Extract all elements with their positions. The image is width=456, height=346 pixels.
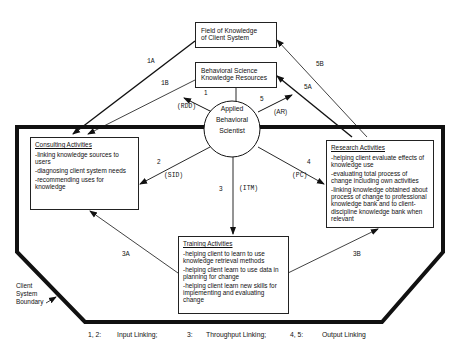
legend-through-label: Throughput Linking; (206, 331, 266, 338)
edge-label-3a: 3A (122, 250, 130, 257)
consulting-title: Consulting Activities (35, 141, 134, 148)
consulting-item: -diagnosing client system needs (35, 167, 134, 174)
training-item: -helping client to learn to use knowledg… (183, 250, 284, 264)
edge-label-pc: (PC) (292, 172, 307, 179)
behavioral-line-2: Knowledge Resources (201, 73, 271, 82)
applied-behavioral-scientist: Applied Behavioral Scientist (204, 103, 260, 136)
boundary-line-1: Client (16, 282, 43, 290)
training-title: Training Activities (183, 240, 284, 247)
center-line-2: Behavioral (204, 114, 260, 125)
research-item: -helping client evaluate effects of know… (331, 154, 429, 168)
consulting-activities-box: Consulting Activities -linking knowledge… (30, 137, 139, 210)
edge-label-ar: (AR) (274, 108, 287, 115)
behavioral-science-box: Behavioral Science Knowledge Resources (195, 62, 277, 88)
legend-output-label: Output Linking (322, 331, 366, 338)
training-item: -helping client learn new skills for imp… (183, 282, 284, 304)
edge-label-1: 1 (204, 89, 208, 96)
legend-input-nums: 1, 2: (88, 331, 101, 338)
center-line-1: Applied (204, 103, 260, 114)
consulting-item: -linking knowledge sources to users (35, 151, 134, 165)
edge-label-rdd: (RDD) (177, 103, 196, 110)
legend-output-nums: 4, 5: (290, 331, 303, 338)
field-of-knowledge-box: Field of Knowledge of Client System (195, 22, 277, 48)
edge-label-2: 2 (157, 158, 161, 165)
edge-label-1b: 1B (161, 80, 169, 87)
boundary-line-3: Boundary (16, 298, 43, 306)
field-line-2: of Client System (201, 33, 271, 42)
edge-label-5a: 5A (304, 83, 312, 90)
edge-label-4: 4 (307, 158, 311, 165)
research-title: Research Activities (331, 144, 429, 151)
edge-label-3b: 3B (353, 250, 361, 257)
center-line-3: Scientist (204, 125, 260, 136)
edge-label-sid: (SID) (164, 172, 183, 179)
edge-label-5: 5 (260, 95, 264, 102)
client-system-boundary-label: Client System Boundary (16, 282, 43, 306)
research-activities-box: Research Activities -helping client eval… (326, 140, 434, 228)
edge-label-itm: (ITM) (239, 185, 258, 192)
legend-through-nums: 3: (187, 331, 193, 338)
research-item: -evaluating total process of change incl… (331, 170, 429, 184)
legend-input-label: Input Linking; (117, 331, 157, 338)
edge-label-3: 3 (219, 185, 223, 192)
consulting-item: -recommending uses for knowledge (35, 176, 134, 190)
training-item: -helping client learn to use data in pla… (183, 266, 284, 280)
research-item: -linking knowledge obtained about proces… (331, 186, 429, 222)
boundary-line-2: System (16, 290, 43, 298)
edge-label-5b: 5B (316, 60, 324, 67)
training-activities-box: Training Activities -helping client to l… (178, 236, 289, 314)
edge-label-1a: 1A (147, 58, 155, 65)
